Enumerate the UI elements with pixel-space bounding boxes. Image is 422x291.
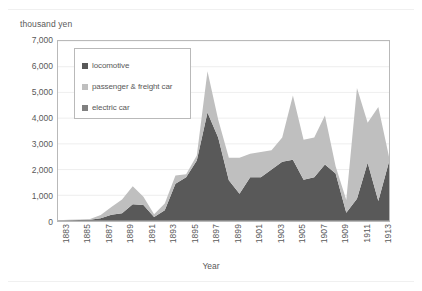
legend-item[interactable]: electric car (82, 97, 184, 118)
x-axis-tick: 1889 (125, 224, 135, 243)
y-axis-unit-label: thousand yen (20, 19, 72, 29)
y-axis-tick: 5,000 (32, 87, 53, 97)
top-divider (8, 9, 414, 10)
y-axis-tick: 0 (48, 217, 53, 227)
x-axis-title: Year (0, 261, 422, 271)
x-axis-tick: 1903 (276, 224, 286, 243)
x-axis-tick: 1885 (82, 224, 92, 243)
x-axis-tick: 1909 (340, 224, 350, 243)
legend-item[interactable]: passenger & freight car (82, 76, 184, 97)
x-axis-tick: 1899 (233, 224, 243, 243)
x-axis-tick: 1907 (319, 224, 329, 243)
x-axis-tick: 1891 (147, 224, 157, 243)
x-axis-tick: 1913 (383, 224, 393, 243)
legend-swatch-icon (82, 105, 88, 111)
y-axis-tick: 6,000 (32, 61, 53, 71)
y-axis-tick-labels: 7,0006,0005,0004,0003,0002,0001,0000 (14, 40, 53, 222)
x-axis-tick: 1895 (190, 224, 200, 243)
y-axis-tick: 1,000 (32, 191, 53, 201)
x-axis-tick: 1883 (61, 224, 71, 243)
y-axis-tick: 7,000 (32, 35, 53, 45)
y-axis-tick: 2,000 (32, 165, 53, 175)
y-axis-tick: 4,000 (32, 113, 53, 123)
legend-swatch-icon (82, 84, 88, 90)
legend-swatch-icon (82, 63, 88, 69)
x-axis-tick: 1901 (254, 224, 264, 243)
x-axis-tick: 1905 (297, 224, 307, 243)
legend-label: passenger & freight car (92, 82, 172, 91)
chart-figure: thousand yen 7,0006,0005,0004,0003,0002,… (0, 0, 422, 291)
chart-legend: locomotivepassenger & freight carelectri… (74, 48, 191, 119)
x-axis-tick-labels: 1883188518871889189118931895189718991901… (57, 224, 390, 260)
legend-label: electric car (92, 103, 129, 112)
legend-item[interactable]: locomotive (82, 55, 184, 76)
legend-label: locomotive (92, 61, 129, 70)
bottom-divider (8, 281, 414, 282)
x-axis-tick: 1893 (168, 224, 178, 243)
x-axis-tick: 1911 (362, 224, 372, 243)
x-axis-tick: 1887 (104, 224, 114, 243)
x-axis-tick: 1897 (211, 224, 221, 243)
y-axis-tick: 3,000 (32, 139, 53, 149)
area-series-locomotive (58, 112, 389, 221)
